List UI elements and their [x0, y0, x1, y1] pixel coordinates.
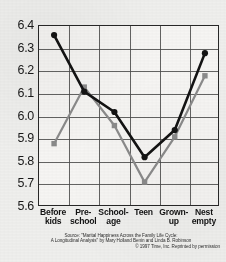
x-tick-label-line2: age [93, 217, 133, 226]
data-point-gray-series [172, 134, 177, 139]
x-axis-labels: BeforekidsPre-schoolSchool-ageTeenGrown-… [38, 208, 219, 234]
series-line-black-series [54, 35, 205, 157]
y-tick-label: 5.7 [18, 176, 34, 190]
marital-happiness-line-chart: 6.46.36.26.16.05.95.85.75.6 BeforekidsPr… [0, 0, 226, 262]
x-tick-label-line2: empty [184, 217, 224, 226]
y-tick-label: 5.6 [18, 199, 34, 213]
series-lines [39, 26, 220, 207]
y-tick-label: 6.0 [18, 109, 34, 123]
series-line-gray-series [54, 76, 205, 182]
source-credit: Source: "Marital Happiness Across the Fa… [22, 233, 220, 249]
data-point-black-series [81, 89, 87, 95]
x-tick-label: Nestempty [184, 208, 224, 227]
y-tick-label: 6.2 [18, 63, 34, 77]
data-point-black-series [51, 32, 57, 38]
plot-area [38, 25, 219, 206]
y-tick-label: 6.1 [18, 86, 34, 100]
x-tick-label-line1: Teen [134, 207, 153, 217]
data-point-gray-series [142, 179, 147, 184]
y-tick-label: 5.9 [18, 131, 34, 145]
y-tick-label: 6.4 [18, 18, 34, 32]
y-tick-label: 5.8 [18, 154, 34, 168]
data-point-gray-series [112, 123, 117, 128]
data-point-black-series [111, 109, 117, 115]
data-point-gray-series [51, 141, 56, 146]
y-tick-label: 6.3 [18, 41, 34, 55]
data-point-black-series [202, 50, 208, 56]
data-point-gray-series [202, 73, 207, 78]
data-point-black-series [141, 154, 147, 160]
data-point-black-series [172, 127, 178, 133]
source-line-3: © 1997 Time, Inc. Reprinted by permissio… [22, 244, 220, 249]
y-axis-labels: 6.46.36.26.16.05.95.85.75.6 [0, 0, 37, 212]
